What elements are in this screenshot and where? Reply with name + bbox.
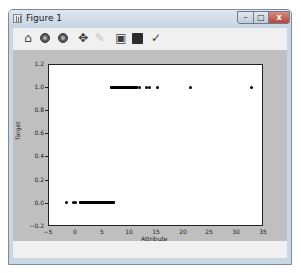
data-point [250,86,253,89]
y-tick-label: 1.0 [24,83,44,90]
zoom-icon: ✎ [95,31,105,45]
x-tick-label: 15 [146,228,166,235]
title-bar[interactable]: Figure 1 – □ x [9,10,291,28]
data-point-cluster [79,201,114,204]
y-tick-label: 1.2 [24,60,44,67]
save-button[interactable] [132,33,143,44]
y-tick-mark [45,156,48,157]
y-tick-mark [45,133,48,134]
close-button[interactable]: x [268,11,290,24]
window-title: Figure 1 [26,13,62,23]
edit-icon: ✓ [151,31,161,45]
data-point [148,86,151,89]
x-tick-label: 25 [199,228,219,235]
y-tick-mark [45,203,48,204]
subplots-icon: ▣ [115,31,126,45]
data-point-cluster [110,86,137,89]
x-axis-label: Attribute [141,235,168,242]
x-tick-label: 10 [119,228,139,235]
x-tick-label: 0 [65,228,85,235]
x-tick-label: 20 [173,228,193,235]
pan-icon: ✥ [78,31,88,45]
y-tick-label: 0.2 [24,176,44,183]
data-point [156,86,159,89]
y-tick-label: 0.8 [24,106,44,113]
back-button[interactable] [40,33,50,43]
edit-axis-button[interactable]: ✓ [149,31,163,45]
y-tick-mark [45,180,48,181]
home-button[interactable]: ⌂ [21,31,35,45]
forward-button[interactable] [58,33,68,43]
status-bar [13,241,287,258]
y-tick-label: 0.0 [24,199,44,206]
home-icon: ⌂ [24,31,32,45]
y-tick-mark [45,87,48,88]
maximize-button[interactable]: □ [253,11,269,24]
y-axis-label: Target [14,121,21,140]
x-tick-label: −5 [38,228,58,235]
pan-button[interactable]: ✥ [76,31,90,45]
y-tick-label: 0.4 [24,152,44,159]
y-tick-mark [45,110,48,111]
x-tick-label: 5 [92,228,112,235]
x-tick-label: 35 [253,228,273,235]
minimize-button[interactable]: – [237,11,254,24]
x-tick-label: 30 [226,228,246,235]
zoom-button[interactable]: ✎ [93,31,107,45]
navigation-toolbar: ⌂ ✥ ✎ ▣ ✓ [13,28,287,50]
y-tick-label: 0.6 [24,129,44,136]
configure-subplots-button[interactable]: ▣ [114,31,128,45]
app-icon [13,14,22,23]
